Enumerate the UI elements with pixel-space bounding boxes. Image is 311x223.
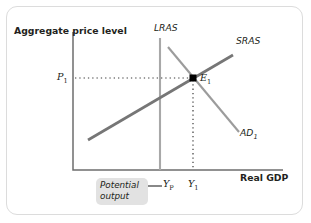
ad-curve-label-sub: 1 (253, 133, 257, 141)
price-level-label-sub: 1 (63, 77, 67, 85)
potential-output-callout-text: Potential output (100, 180, 146, 203)
ad-curve (168, 47, 239, 132)
actual-output-tick-sub: 1 (194, 184, 198, 192)
equilibrium-label-sub: 1 (207, 78, 211, 86)
potential-output-tick-label: YP (163, 178, 174, 192)
sras-curve-label: SRAS (236, 35, 260, 46)
diagram-stage: Aggregate price level Real GDP LRAS SRAS… (0, 0, 311, 223)
axes-lines (73, 32, 283, 170)
y-axis-title: Aggregate price level (14, 26, 70, 37)
equilibrium-label-text: E (200, 72, 207, 83)
equilibrium-point-marker (190, 75, 197, 82)
equilibrium-label: E1 (200, 72, 211, 86)
lras-curve-label: LRAS (154, 22, 178, 33)
price-level-label: P1 (57, 71, 68, 85)
potential-output-tick-sub: P (169, 184, 173, 192)
ad-curve-label-text: AD (240, 127, 253, 138)
actual-output-tick-label: Y1 (188, 178, 199, 192)
x-axis-title: Real GDP (240, 173, 288, 184)
ad-curve-label: AD1 (240, 127, 258, 141)
